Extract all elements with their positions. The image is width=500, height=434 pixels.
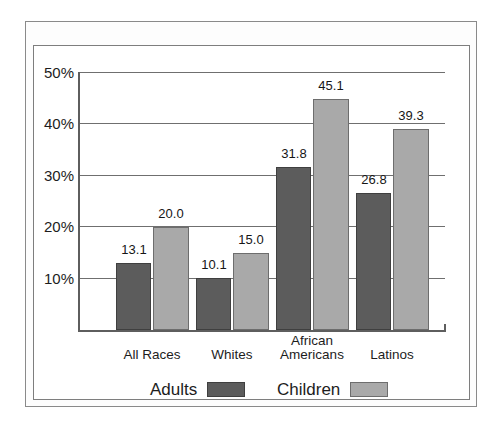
chart-plot-area: 50% 40% 30% 20% 10% 13.1 20.0 10.1 15.0 …: [0, 0, 500, 434]
legend-label-adults: Adults: [150, 381, 197, 398]
bar-children-latinos[interactable]: [393, 129, 429, 330]
y-tick-label-40: 40%: [14, 116, 74, 131]
bar-value-children-all-races: 20.0: [145, 207, 197, 220]
y-axis-line: [78, 72, 80, 331]
bar-adults-whites[interactable]: [196, 278, 231, 330]
y-tick-label-30: 30%: [14, 168, 74, 183]
bar-value-adults-whites: 10.1: [188, 258, 240, 271]
x-category-label-african: African: [272, 334, 352, 348]
bar-value-adults-african-americans: 31.8: [268, 147, 320, 160]
bar-adults-african-americans[interactable]: [276, 167, 311, 330]
gridline-50: [79, 72, 445, 73]
adults-swatch-icon: [207, 382, 245, 397]
x-category-label-latinos: Latinos: [352, 348, 432, 362]
x-axis-end-tick: [444, 324, 446, 332]
bar-value-adults-latinos: 26.8: [348, 173, 400, 186]
legend-item-adults[interactable]: Adults: [150, 381, 245, 398]
x-axis-line: [78, 330, 446, 332]
chart-page: 50% 40% 30% 20% 10% 13.1 20.0 10.1 15.0 …: [0, 0, 500, 434]
y-tick-label-10: 10%: [14, 271, 74, 286]
x-category-label-americans: Americans: [272, 348, 352, 362]
bar-value-children-whites: 15.0: [225, 233, 277, 246]
y-tick-label-50: 50%: [14, 65, 74, 80]
bar-value-children-african-americans: 45.1: [305, 79, 357, 92]
bar-children-african-americans[interactable]: [313, 99, 349, 330]
gridline-40: [79, 123, 445, 124]
x-category-label-all-races: All Races: [112, 348, 192, 362]
children-swatch-icon: [350, 382, 388, 397]
bar-adults-all-races[interactable]: [116, 263, 151, 330]
bar-value-children-latinos: 39.3: [385, 109, 437, 122]
bar-adults-latinos[interactable]: [356, 193, 391, 330]
y-tick-label-20: 20%: [14, 219, 74, 234]
legend-label-children: Children: [277, 381, 340, 398]
x-category-label-whites: Whites: [192, 348, 272, 362]
bar-value-adults-all-races: 13.1: [108, 243, 160, 256]
legend-item-children[interactable]: Children: [277, 381, 388, 398]
